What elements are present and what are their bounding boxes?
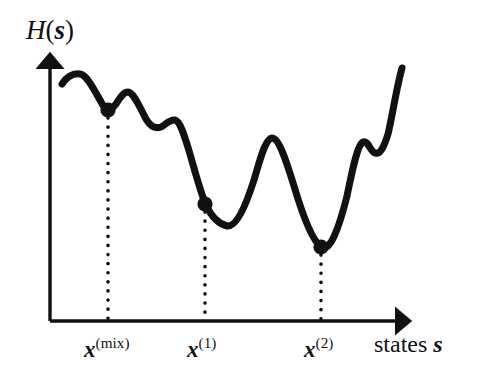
marker-x-mix	[100, 102, 115, 117]
marker-x-2	[313, 239, 328, 254]
tick-label-x-2-superscript: (2)	[316, 334, 334, 351]
y-axis-label-argument: s	[55, 15, 66, 45]
energy-curve	[62, 68, 402, 248]
tick-label-x-mix-superscript: (mix)	[96, 334, 130, 351]
tick-label-x-2: x(2)	[304, 335, 334, 361]
tick-label-x-mix-base: x	[84, 337, 96, 362]
tick-label-x-mix: x(mix)	[84, 335, 130, 361]
x-axis-label-variable: s	[433, 331, 442, 357]
x-axis-label: states s	[374, 332, 443, 356]
tick-label-x-1-superscript: (1)	[199, 334, 217, 351]
tick-label-x-1: x(1)	[187, 335, 217, 361]
y-axis-label-open-paren: (	[46, 15, 55, 45]
x-axis-label-word: states	[374, 331, 427, 357]
energy-landscape-figure: H(s) x(mix) x(1) x(2) states s	[0, 0, 479, 374]
y-axis-label-function: H	[26, 15, 46, 45]
energy-curve-group	[62, 68, 402, 248]
marker-x-1	[197, 196, 212, 211]
y-axis-label-close-paren: )	[65, 15, 74, 45]
figure-canvas	[0, 0, 479, 374]
tick-label-x-1-base: x	[187, 337, 199, 362]
tick-label-x-2-base: x	[304, 337, 316, 362]
y-axis-label: H(s)	[26, 17, 74, 44]
